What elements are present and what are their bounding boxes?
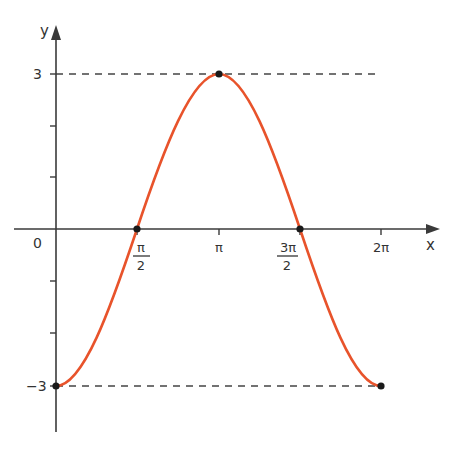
x-ticks [137,229,381,235]
point-end [377,382,384,389]
x-tick-label-two-pi: 2π [373,240,389,255]
x-tick-label-three-pi-half: 3π 2 [277,240,298,273]
chart-canvas: y x 0 3 −3 π 2 π 3π 2 2π [0,0,454,454]
y-tick-label-3: 3 [33,66,42,82]
svg-text:2: 2 [137,258,145,273]
y-tick-label-neg3: −3 [26,378,47,394]
y-axis-arrow-icon [51,25,61,40]
x-tick-label-pi-half: π 2 [133,240,150,273]
y-axis-label: y [40,22,49,40]
x-axis-arrow-icon [426,224,440,234]
svg-text:3π: 3π [280,240,296,255]
origin-label: 0 [33,235,42,251]
point-max [215,70,222,77]
point-start [52,382,59,389]
svg-text:2: 2 [283,258,291,273]
point-zero-pi-half [133,225,140,232]
x-axis-label: x [426,236,435,254]
x-tick-label-pi: π [215,240,223,255]
point-zero-three-pi-half [296,225,303,232]
svg-text:π: π [137,240,145,255]
y-ticks [50,74,56,386]
